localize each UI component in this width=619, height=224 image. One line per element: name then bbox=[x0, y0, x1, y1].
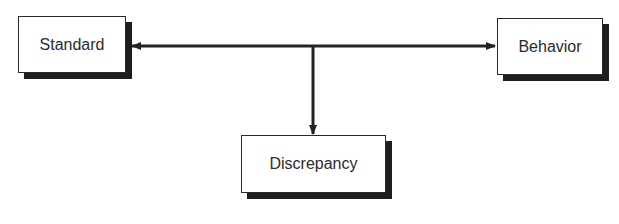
node-discrepancy-label: Discrepancy bbox=[269, 155, 357, 173]
node-behavior-label: Behavior bbox=[518, 38, 581, 56]
node-standard-label: Standard bbox=[40, 36, 105, 54]
node-standard: Standard bbox=[18, 16, 126, 73]
node-behavior: Behavior bbox=[497, 18, 603, 75]
node-discrepancy: Discrepancy bbox=[241, 135, 386, 193]
